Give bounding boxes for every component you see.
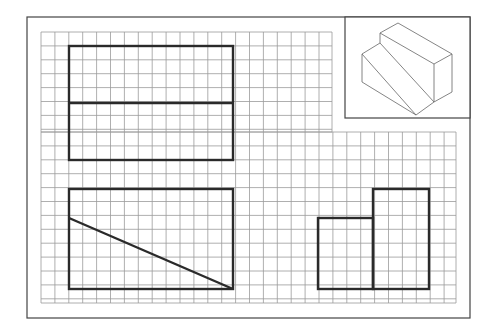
isometric-view-box: [345, 17, 470, 118]
front-view-outline: [69, 189, 233, 289]
front-view-slope-line: [69, 218, 233, 289]
drawing-sheet: [0, 0, 492, 335]
drawing-canvas: [0, 0, 492, 335]
side-view-upper-block: [373, 189, 429, 289]
side-view-lower-block: [318, 218, 373, 289]
